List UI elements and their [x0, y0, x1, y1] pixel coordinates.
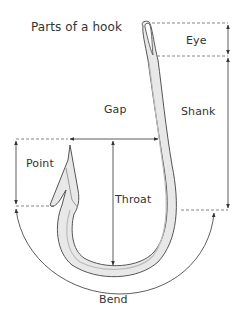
- diagram-title: Parts of a hook: [31, 20, 122, 34]
- bend-dimension-arrow: [16, 209, 214, 294]
- label-throat: Throat: [115, 193, 151, 206]
- label-gap: Gap: [104, 103, 127, 116]
- label-eye: Eye: [186, 34, 207, 47]
- label-point: Point: [26, 157, 54, 170]
- hook-diagram: Parts of a hook Eye Gap Shank Point Thro…: [0, 0, 242, 324]
- label-bend: Bend: [99, 293, 128, 306]
- label-shank: Shank: [181, 105, 216, 118]
